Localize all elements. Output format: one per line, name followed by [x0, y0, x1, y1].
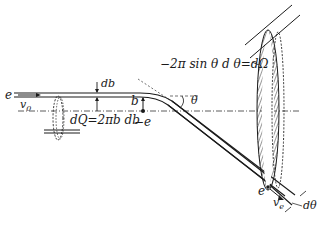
- target-charge-dot: [141, 109, 145, 113]
- impact-parameter-label: b: [131, 95, 139, 107]
- outgoing-charge-label: e: [258, 185, 265, 197]
- incoming-charge-label: e: [5, 89, 12, 101]
- solid-angle-formula: −2π sin θ d θ=dΩ: [160, 58, 268, 70]
- db-label: db: [101, 78, 115, 89]
- velocity-subscript: e: [279, 202, 284, 211]
- dtheta-label: dθ: [303, 200, 317, 211]
- outgoing-velocity-label: ve: [273, 197, 284, 211]
- velocity-subscript: 0: [26, 104, 31, 113]
- ring-area-formula: dQ=2πb db: [70, 114, 140, 126]
- scattering-diagram: e v0 db b −e dQ=2πb db θ −2π sin θ d θ=d…: [0, 0, 323, 231]
- incoming-velocity-label: v0: [20, 99, 31, 113]
- trajectory-outer: [14, 93, 268, 176]
- trajectory-inner: [14, 97, 264, 180]
- angle-theta-label: θ: [191, 95, 198, 106]
